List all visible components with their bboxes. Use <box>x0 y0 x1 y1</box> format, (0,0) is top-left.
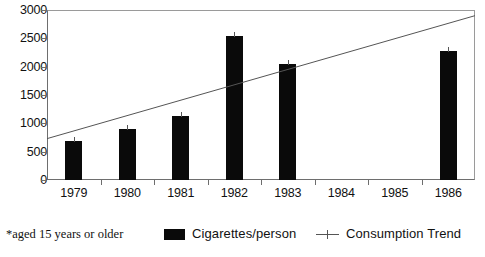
x-tick-label: 1979 <box>48 186 100 200</box>
legend-line-icon <box>316 229 339 240</box>
x-tick-label: 1981 <box>155 186 207 200</box>
x-tick-mark <box>315 180 316 185</box>
x-tick-mark <box>422 180 423 185</box>
consumption-trend-line <box>47 16 475 139</box>
x-tick-mark <box>208 180 209 185</box>
legend-label-trend: Consumption Trend <box>346 227 461 241</box>
x-tick-mark <box>261 180 262 185</box>
x-tick-label: 1980 <box>101 186 153 200</box>
x-tick-label: 1983 <box>262 186 314 200</box>
x-tick-mark <box>101 180 102 185</box>
x-tick-label: 1985 <box>369 186 421 200</box>
x-tick-mark <box>368 180 369 185</box>
legend-square-icon <box>164 229 185 240</box>
legend-label-cigarettes: Cigarettes/person <box>192 227 296 241</box>
x-tick-label: 1982 <box>208 186 260 200</box>
x-tick-label: 1986 <box>422 186 474 200</box>
footnote: *aged 15 years or older <box>6 227 123 241</box>
x-axis: 19791980198119821983198419851986 <box>47 186 475 204</box>
cigarette-consumption-chart: 300025002000150010005000 197919801981198… <box>0 0 485 257</box>
legend-item-trend: Consumption Trend <box>316 224 461 244</box>
x-tick-mark <box>154 180 155 185</box>
y-axis: 300025002000150010005000 <box>0 0 47 190</box>
x-tick-label: 1984 <box>315 186 367 200</box>
y-tick-mark <box>41 180 47 181</box>
chart-footer: *aged 15 years or older Cigarettes/perso… <box>0 222 485 248</box>
legend-item-cigarettes: Cigarettes/person <box>164 224 296 244</box>
trend-line-layer <box>47 10 475 180</box>
